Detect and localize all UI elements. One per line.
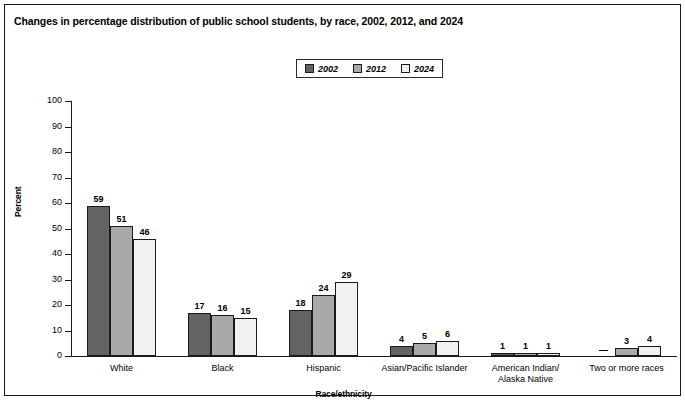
bar-slot: 5 bbox=[413, 101, 436, 356]
bar[interactable] bbox=[491, 353, 514, 356]
y-axis-tick bbox=[65, 101, 71, 102]
bar-value-label: 24 bbox=[312, 283, 335, 293]
bar-value-label: 4 bbox=[638, 334, 661, 344]
y-axis-line bbox=[71, 101, 72, 357]
bar-slot: 16 bbox=[211, 101, 234, 356]
bar-value-label: 1 bbox=[491, 341, 514, 351]
legend-item-label: 2012 bbox=[366, 64, 386, 74]
y-axis-tick-label: 60 bbox=[34, 197, 62, 208]
y-axis-tick-label: 90 bbox=[34, 121, 62, 132]
bar-slot: 24 bbox=[312, 101, 335, 356]
legend-swatch-icon bbox=[401, 64, 410, 73]
bar-value-label: 15 bbox=[234, 306, 257, 316]
bar-slot: 17 bbox=[188, 101, 211, 356]
y-axis-tick-label: 70 bbox=[34, 172, 62, 183]
bar-value-label: 59 bbox=[87, 194, 110, 204]
bar-group-bars: 456 bbox=[390, 101, 459, 356]
y-axis-tick bbox=[65, 356, 71, 357]
y-axis-tick bbox=[65, 229, 71, 230]
page-title: Changes in percentage distribution of pu… bbox=[14, 15, 664, 28]
bar-group-bars: 595146 bbox=[87, 101, 156, 356]
bar-slot: 1 bbox=[514, 101, 537, 356]
y-axis-tick bbox=[65, 331, 71, 332]
bar-slot: 3 bbox=[615, 101, 638, 356]
bar-slot: 6 bbox=[436, 101, 459, 356]
y-axis-tick bbox=[65, 254, 71, 255]
bar[interactable] bbox=[110, 226, 133, 356]
bar-group-bars: —34 bbox=[592, 101, 661, 356]
bar-slot: 4 bbox=[390, 101, 413, 356]
chart-figure: Changes in percentage distribution of pu… bbox=[4, 4, 681, 396]
y-axis-tick-label: 50 bbox=[34, 223, 62, 234]
bar-slot: 18 bbox=[289, 101, 312, 356]
legend-item-label: 2002 bbox=[318, 64, 338, 74]
legend-swatch-icon bbox=[353, 64, 362, 73]
x-axis-category-label: Hispanic bbox=[273, 363, 374, 374]
legend-swatch-icon bbox=[305, 64, 314, 73]
bar-slot: 1 bbox=[491, 101, 514, 356]
legend-item-label: 2024 bbox=[414, 64, 434, 74]
bar-slot: 46 bbox=[133, 101, 156, 356]
bar-group-bars: 171615 bbox=[188, 101, 257, 356]
bar[interactable] bbox=[436, 341, 459, 356]
bar-group: —34 bbox=[592, 101, 661, 356]
bar-slot: 29 bbox=[335, 101, 358, 356]
bar-slot: 51 bbox=[110, 101, 133, 356]
bar[interactable] bbox=[537, 353, 560, 356]
y-axis-tick-label: 40 bbox=[34, 248, 62, 259]
bar[interactable] bbox=[312, 295, 335, 356]
bar-value-label: 18 bbox=[289, 298, 312, 308]
bar-group-bars: 182429 bbox=[289, 101, 358, 356]
bar-value-label: 1 bbox=[537, 341, 560, 351]
legend-item-2012[interactable]: 2012 bbox=[353, 64, 386, 74]
y-axis-title: Percent bbox=[13, 187, 23, 217]
bar[interactable] bbox=[390, 346, 413, 356]
bar[interactable] bbox=[133, 239, 156, 356]
legend-item-2024[interactable]: 2024 bbox=[401, 64, 434, 74]
bar[interactable] bbox=[234, 318, 257, 356]
x-axis-category-label: White bbox=[71, 363, 172, 374]
y-axis-tick-label: 100 bbox=[34, 95, 62, 106]
bar-not-available-label: — bbox=[592, 346, 615, 354]
bar-slot: 4 bbox=[638, 101, 661, 356]
bar-value-label: 4 bbox=[390, 334, 413, 344]
x-axis-category-label: Asian/Pacific Islander bbox=[374, 363, 475, 374]
bar[interactable] bbox=[289, 310, 312, 356]
y-axis-tick bbox=[65, 127, 71, 128]
legend-item-2002[interactable]: 2002 bbox=[305, 64, 338, 74]
chart-legend: 200220122024 bbox=[296, 59, 443, 78]
x-axis-title: Race/ethnicity bbox=[5, 389, 682, 399]
y-axis-tick bbox=[65, 178, 71, 179]
bar-group: 182429 bbox=[289, 101, 358, 356]
y-axis-tick bbox=[65, 305, 71, 306]
bar-value-label: 17 bbox=[188, 301, 211, 311]
x-axis-category-label: Black bbox=[172, 363, 273, 374]
bar[interactable] bbox=[514, 353, 537, 356]
bar-slot: 1 bbox=[537, 101, 560, 356]
y-axis-tick-label: 0 bbox=[34, 350, 62, 361]
bar[interactable] bbox=[638, 346, 661, 356]
bar[interactable] bbox=[211, 315, 234, 356]
bar-slot: 15 bbox=[234, 101, 257, 356]
bar[interactable] bbox=[413, 343, 436, 356]
bar-value-label: 46 bbox=[133, 227, 156, 237]
bar-value-label: 3 bbox=[615, 336, 638, 346]
y-axis-tick-label: 30 bbox=[34, 274, 62, 285]
bar-group-bars: 111 bbox=[491, 101, 560, 356]
y-axis-tick-label: 10 bbox=[34, 325, 62, 336]
y-axis-tick-label: 20 bbox=[34, 299, 62, 310]
bar-group: 111 bbox=[491, 101, 560, 356]
bar[interactable] bbox=[615, 348, 638, 356]
bar[interactable] bbox=[87, 206, 110, 356]
bar[interactable] bbox=[335, 282, 358, 356]
bar-slot: 59 bbox=[87, 101, 110, 356]
y-axis-tick-label: 80 bbox=[34, 146, 62, 157]
bar-value-label: 1 bbox=[514, 341, 537, 351]
y-axis-tick bbox=[65, 152, 71, 153]
bar-value-label: 5 bbox=[413, 331, 436, 341]
bar-value-label: 6 bbox=[436, 329, 459, 339]
x-axis-line bbox=[71, 356, 677, 357]
bar[interactable] bbox=[188, 313, 211, 356]
y-axis-tick bbox=[65, 203, 71, 204]
x-axis-category-label: American Indian/ Alaska Native bbox=[475, 363, 576, 385]
